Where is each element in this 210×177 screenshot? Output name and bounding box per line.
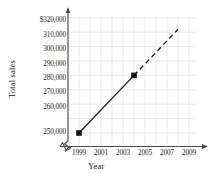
sales-trend-chart: $320,000 310,000 300,000 290,000 280,000… (0, 0, 210, 177)
x-tick-label: 2005 (134, 149, 156, 157)
x-tick-label: 2009 (178, 149, 200, 157)
x-axis-tick-labels: 1999 2001 2003 2005 2007 2009 (0, 0, 210, 177)
x-tick-label: 2007 (156, 149, 178, 157)
x-tick-label: 1999 (68, 149, 90, 157)
x-tick-label: 2003 (112, 149, 134, 157)
x-tick-label: 2001 (90, 149, 112, 157)
y-axis-title: Total sales (7, 51, 17, 107)
x-axis-title: Year (88, 161, 104, 171)
